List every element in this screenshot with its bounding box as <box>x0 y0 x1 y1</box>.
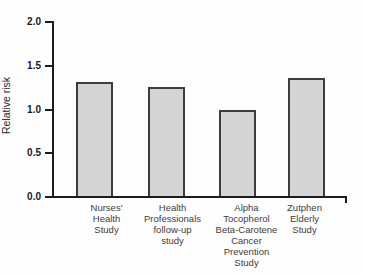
y-axis-line <box>52 21 54 198</box>
y-tick-mark <box>45 109 52 111</box>
relative-risk-bar-chart: Relative risk 2.01.51.00.50.0 Nurses' He… <box>0 0 365 275</box>
y-axis-title: Relative risk <box>1 61 12 151</box>
y-tick-mark <box>45 21 52 23</box>
bar <box>288 78 325 196</box>
x-axis-line <box>52 196 347 198</box>
bar <box>219 110 256 196</box>
y-tick-label: 2.0 <box>15 17 41 27</box>
y-tick-label: 1.5 <box>15 61 41 71</box>
y-tick-mark <box>45 152 52 154</box>
y-tick-mark <box>45 196 52 198</box>
y-tick-label: 0.0 <box>15 192 41 202</box>
y-tick-label: 0.5 <box>15 148 41 158</box>
bar <box>76 82 113 196</box>
y-tick-mark <box>45 65 52 67</box>
bar <box>148 87 185 196</box>
x-category-label: Zutphen Elderly Study <box>259 202 351 235</box>
y-tick-label: 1.0 <box>15 105 41 115</box>
